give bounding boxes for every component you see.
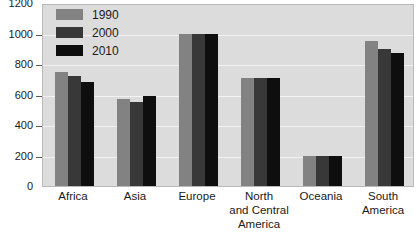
x-axis-category-label-line: Oceania xyxy=(290,189,352,203)
bar xyxy=(81,82,94,186)
bar xyxy=(68,76,81,186)
y-axis-tick-label: 400 xyxy=(15,120,33,131)
x-axis-category-label-line: Europe xyxy=(166,189,228,203)
bar xyxy=(179,34,192,187)
x-axis-category-label: Oceania xyxy=(290,189,352,203)
bar-group xyxy=(179,5,218,186)
bar-chart: 020040060080010001200 199020002010 Afric… xyxy=(0,0,420,241)
y-axis-tick-label: 800 xyxy=(15,59,33,70)
bar xyxy=(254,78,267,186)
bar xyxy=(55,72,68,186)
bar xyxy=(267,78,280,186)
legend-label: 2010 xyxy=(92,45,119,57)
bar xyxy=(143,96,156,186)
x-axis-category-label: Africa xyxy=(42,189,104,203)
bar xyxy=(316,156,329,187)
y-axis-tick-label: 1200 xyxy=(9,0,33,9)
bar xyxy=(303,156,316,187)
x-axis-category-label: Northand CentralAmerica xyxy=(228,189,290,231)
legend-label: 1990 xyxy=(92,9,119,21)
legend-item: 1990 xyxy=(56,8,119,21)
bar xyxy=(117,99,130,186)
bar xyxy=(192,34,205,187)
bar xyxy=(391,53,404,186)
legend-swatch-icon xyxy=(56,27,83,38)
bar-group xyxy=(365,5,404,186)
x-axis: AfricaAsiaEuropeNorthand CentralAmericaO… xyxy=(42,189,414,241)
x-axis-category-label-line: and Central xyxy=(228,203,290,217)
x-axis-category-label-line: North xyxy=(228,189,290,203)
y-axis-tick-label: 600 xyxy=(15,90,33,101)
x-axis-category-label-line: America xyxy=(228,217,290,231)
legend: 199020002010 xyxy=(56,8,119,57)
y-axis-tick-label: 200 xyxy=(15,151,33,162)
bar xyxy=(378,49,391,186)
legend-item: 2000 xyxy=(56,26,119,39)
bar xyxy=(365,41,378,186)
bar xyxy=(205,34,218,187)
x-axis-category-label-line: Africa xyxy=(42,189,104,203)
bar xyxy=(130,102,143,186)
x-axis-category-label: Europe xyxy=(166,189,228,203)
y-axis: 020040060080010001200 xyxy=(0,0,42,191)
x-axis-category-label: SouthAmerica xyxy=(352,189,414,217)
bar xyxy=(241,78,254,186)
y-axis-tick-label: 0 xyxy=(27,181,33,192)
legend-label: 2000 xyxy=(92,27,119,39)
legend-swatch-icon xyxy=(56,9,83,20)
bar-group xyxy=(117,5,156,186)
bar-group xyxy=(303,5,342,186)
bar-group xyxy=(241,5,280,186)
y-axis-tick-label: 1000 xyxy=(9,29,33,40)
bar xyxy=(329,156,342,187)
x-axis-category-label: Asia xyxy=(104,189,166,203)
x-axis-category-label-line: South xyxy=(352,189,414,203)
legend-swatch-icon xyxy=(56,45,83,56)
legend-item: 2010 xyxy=(56,44,119,57)
x-axis-category-label-line: Asia xyxy=(104,189,166,203)
x-axis-category-label-line: America xyxy=(352,203,414,217)
